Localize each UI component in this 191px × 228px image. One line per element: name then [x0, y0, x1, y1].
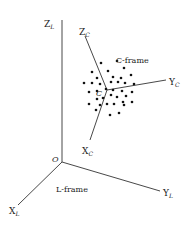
axis-z-c	[85, 36, 107, 90]
point	[118, 112, 121, 115]
point	[110, 81, 113, 84]
point	[96, 98, 99, 101]
point	[83, 82, 86, 85]
axis-label-y-c: YC	[168, 77, 180, 88]
axis-x-l	[18, 162, 62, 205]
point	[120, 77, 123, 80]
point-cloud	[83, 60, 136, 117]
axis-label-y-l: YL	[162, 188, 173, 199]
point	[122, 101, 125, 104]
axis-y-c	[107, 80, 166, 90]
axis-labels: ZLYLXLZCYCXC	[9, 19, 180, 217]
point	[112, 89, 115, 92]
point	[109, 114, 112, 117]
point	[91, 71, 94, 74]
point	[88, 103, 91, 106]
point	[113, 103, 116, 106]
point	[88, 91, 91, 94]
l-frame-axes	[18, 20, 160, 205]
point	[100, 62, 103, 65]
point	[106, 103, 109, 106]
point	[95, 109, 98, 112]
point	[116, 96, 119, 99]
point	[99, 104, 102, 107]
point	[107, 70, 110, 73]
point	[124, 82, 127, 85]
point	[112, 76, 115, 79]
axis-label-x-c: XC	[82, 146, 93, 157]
origin-label: O	[52, 155, 59, 164]
point	[131, 91, 134, 94]
c-frame-label: C-frame	[116, 56, 149, 65]
point	[91, 82, 94, 85]
point	[130, 74, 133, 77]
coordinate-frames-diagram: ZLYLXLZCYCXC L-frame C-frame O C	[0, 0, 191, 228]
point	[110, 94, 113, 97]
point	[125, 95, 128, 98]
point	[117, 81, 120, 84]
point	[131, 101, 134, 104]
l-frame-label: L-frame	[56, 185, 88, 194]
point	[123, 67, 126, 70]
axis-label-z-c: ZC	[79, 27, 90, 38]
point	[96, 77, 99, 80]
point	[99, 83, 102, 86]
point	[105, 88, 108, 91]
point	[121, 90, 124, 93]
point	[133, 83, 136, 86]
center-label: C	[96, 89, 102, 98]
c-frame-axes	[85, 36, 166, 140]
axis-label-x-l: XL	[9, 206, 19, 217]
point	[123, 104, 126, 107]
axis-label-z-l: ZL	[44, 19, 54, 30]
